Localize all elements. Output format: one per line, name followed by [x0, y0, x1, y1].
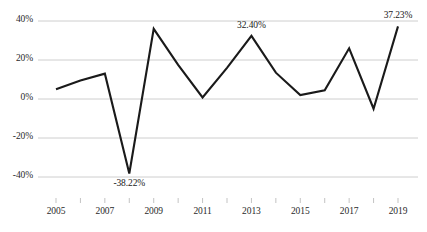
chart-plot-area: [0, 0, 427, 232]
y-axis-tick-label: -20%: [0, 131, 33, 141]
x-axis-tick-label: 2005: [36, 206, 76, 216]
y-axis-tick-label: 40%: [0, 14, 33, 24]
x-axis-tick-marks: [56, 198, 398, 203]
y-axis-tick-label: 20%: [0, 53, 33, 63]
data-point-label: -38.22%: [99, 178, 159, 188]
line-chart: 40%20%0%-20%-40% 20052007200920112013201…: [0, 0, 427, 232]
data-series-line: [56, 26, 398, 173]
gridlines: [38, 21, 418, 177]
x-axis-tick-label: 2007: [85, 206, 125, 216]
x-axis-tick-label: 2011: [183, 206, 223, 216]
data-point-label: 37.23%: [368, 10, 427, 20]
x-axis-tick-label: 2009: [134, 206, 174, 216]
x-axis-tick-label: 2019: [378, 206, 418, 216]
y-axis-tick-label: 0%: [0, 92, 33, 102]
y-axis-tick-label: -40%: [0, 170, 33, 180]
x-axis-tick-label: 2017: [329, 206, 369, 216]
x-axis-tick-label: 2013: [231, 206, 271, 216]
data-point-label: 32.40%: [221, 20, 281, 30]
x-axis-tick-label: 2015: [280, 206, 320, 216]
